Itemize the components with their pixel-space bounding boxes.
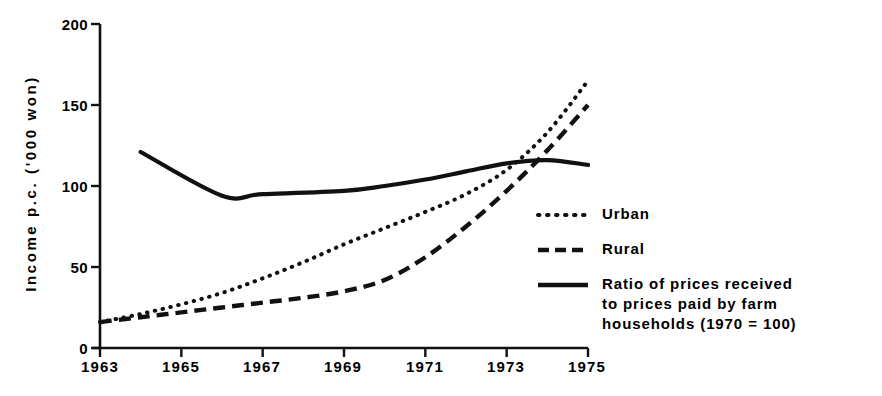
legend-label-urban: Urban	[602, 204, 650, 224]
chart-figure: Income p.c. ('000 won) 200 150 100 50 0 …	[0, 0, 882, 396]
legend-item-rural: Rural	[536, 239, 876, 259]
legend-label-rural: Rural	[602, 239, 645, 259]
x-axis-ticks	[100, 348, 588, 357]
legend-item-urban: Urban	[536, 204, 876, 224]
chart-legend: Urban Rural Ratio of prices received to …	[536, 204, 876, 349]
legend-swatch-dashed-icon	[536, 239, 590, 257]
series-line-urban	[100, 81, 588, 322]
legend-item-ratio: Ratio of prices received to prices paid …	[536, 274, 876, 334]
legend-swatch-dotted-icon	[536, 204, 590, 222]
legend-label-ratio: Ratio of prices received to prices paid …	[602, 274, 797, 334]
legend-swatch-solid-icon	[536, 274, 590, 292]
y-axis-ticks	[91, 24, 100, 348]
series-line-rural	[100, 105, 588, 322]
data-series-layer	[100, 81, 588, 322]
